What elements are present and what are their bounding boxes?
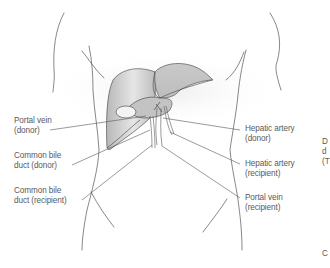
leader-lines xyxy=(50,116,240,200)
label-hepatic-artery-donor: Hepatic artery (donor) xyxy=(245,124,295,144)
clipped-label-fragment: D d (T xyxy=(322,137,330,167)
label-portal-vein-recipient: Portal vein (recipient) xyxy=(245,193,283,213)
leader-portal-vein-recipient xyxy=(162,146,240,198)
label-hepatic-artery-recipient: Hepatic artery (recipient) xyxy=(245,159,295,179)
clipped-label-fragment-lower: C xyxy=(322,249,328,259)
label-common-bile-duct-recipient: Common bile duct (recipient) xyxy=(14,186,67,206)
leader-cbd-recipient xyxy=(82,145,152,200)
gallbladder xyxy=(116,106,136,118)
right-hip-line xyxy=(203,199,227,232)
label-portal-vein-donor: Portal vein (donor) xyxy=(14,116,52,136)
label-common-bile-duct-donor: Common bile duct (donor) xyxy=(14,151,61,171)
leader-hepatic-artery-recipient xyxy=(170,132,240,164)
left-hip-line xyxy=(91,192,114,227)
